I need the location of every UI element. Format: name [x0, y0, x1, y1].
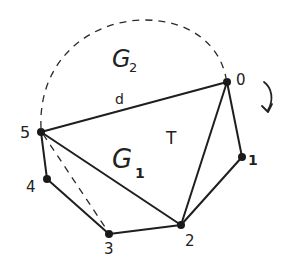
node-2	[177, 221, 185, 229]
edge-1-2	[181, 157, 242, 225]
edge-0-2	[181, 82, 227, 225]
edge-3-4	[47, 179, 109, 234]
rotation-arrow-icon	[262, 82, 272, 112]
region-label-g1: G	[112, 144, 132, 174]
edge-5-0	[41, 82, 227, 132]
node-0	[223, 78, 231, 86]
node-label-4: 4	[26, 178, 36, 196]
edge-5-3-dashed	[43, 134, 107, 230]
region-label-g2-sub: 2	[129, 60, 137, 75]
edge-2-3	[109, 225, 181, 234]
region-label-g2: G	[112, 45, 131, 73]
edge-0-1	[227, 82, 242, 157]
node-label-0: 0	[236, 71, 246, 89]
node-3	[105, 230, 113, 238]
node-label-2: 2	[185, 232, 195, 250]
region-label-t: T	[165, 128, 177, 148]
edge-5-2	[41, 132, 181, 225]
region-label-g1-sub: 1	[135, 165, 145, 181]
edge-label-d: d	[115, 91, 124, 107]
node-label-5: 5	[20, 123, 30, 142]
node-5	[37, 128, 45, 136]
node-1	[238, 153, 246, 161]
node-4	[43, 175, 51, 183]
node-label-1: 1	[248, 152, 258, 168]
polygon-diagram: 0 1 2 3 4 5 d G 2 G 1 T	[0, 0, 291, 271]
node-label-3: 3	[104, 240, 114, 258]
